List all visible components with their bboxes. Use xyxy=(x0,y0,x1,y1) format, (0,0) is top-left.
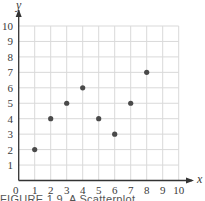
figure-caption: FIGURE 1.9 A Scatterplot xyxy=(0,193,135,201)
y-tick-label: 2 xyxy=(8,144,14,156)
data-point xyxy=(32,147,37,152)
y-tick-label: 1 xyxy=(8,159,14,171)
y-tick-label: 7 xyxy=(8,66,14,78)
y-axis-label: y xyxy=(15,0,22,12)
data-point xyxy=(112,132,117,137)
axes xyxy=(16,9,194,184)
y-tick-label: 10 xyxy=(2,20,14,32)
figure-number: FIGURE 1.9 xyxy=(0,193,63,201)
x-tick-label: 8 xyxy=(144,184,150,196)
y-tick-label: 3 xyxy=(8,128,14,140)
data-point xyxy=(96,116,101,121)
data-point xyxy=(64,101,69,106)
y-tick-label: 9 xyxy=(8,35,14,47)
y-tick-label: 6 xyxy=(8,82,14,94)
x-axis-label: x xyxy=(196,172,203,186)
data-point xyxy=(80,85,85,90)
data-point xyxy=(48,116,53,121)
data-point xyxy=(144,70,149,75)
x-axis-arrow-icon xyxy=(186,178,194,184)
grid-lines xyxy=(19,26,179,181)
x-tick-label: 10 xyxy=(173,184,185,196)
y-tick-label: 4 xyxy=(8,113,14,125)
y-tick-label: 8 xyxy=(8,51,14,63)
y-tick-labels: 12345678910 xyxy=(2,20,14,171)
data-points xyxy=(32,70,149,152)
data-point xyxy=(128,101,133,106)
x-tick-label: 9 xyxy=(160,184,166,196)
y-tick-label: 5 xyxy=(8,97,14,109)
figure-title: A Scatterplot xyxy=(69,193,135,201)
scatter-chart: y x 012345678910 12345678910 xyxy=(0,0,205,201)
